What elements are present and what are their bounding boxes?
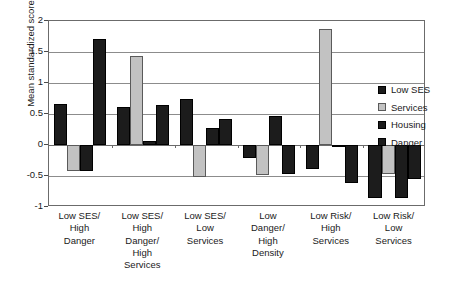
bar [117,107,130,145]
x-category-label-line: High [111,222,174,234]
legend-item: Housing [378,116,458,134]
legend-item: Low SES [378,81,458,99]
bar [206,128,219,145]
x-category-label-line: Low SES/ [174,210,237,222]
legend-swatch-icon [378,86,386,94]
x-category-label-line: Low Risk/ [299,210,362,222]
x-category-label-line: Low [362,222,425,234]
y-tick-label: 2 [3,15,43,25]
legend-label: Services [391,102,427,113]
legend-label: Danger [391,137,422,148]
y-tick-label: 0 [3,139,43,149]
bar-group [238,21,301,205]
bar [256,145,269,175]
legend-swatch-icon [378,103,386,111]
x-tick-mark [363,145,364,148]
x-tick-mark [300,145,301,148]
x-category-label-line: Low [237,210,300,222]
y-tick-label: 0.5 [3,108,43,118]
x-category-label: Low SES/HighDanger/HighServices [111,210,174,271]
x-category-label-line: Low SES/ [48,210,111,222]
y-tick-mark [44,206,48,207]
x-category-label-line: Low SES/ [111,210,174,222]
bar [156,105,169,145]
bar-group [49,21,112,205]
x-category-label-line: Low [174,222,237,234]
bar-chart-figure: Mean standardized score -1-0.500.511.52 … [0,0,458,294]
bar-group [300,21,363,205]
x-category-label-line: Danger/ [237,222,300,234]
y-tick-label: -1 [3,201,43,211]
x-category-label-line: High [299,222,362,234]
y-tick-label: 1 [3,77,43,87]
bar [93,39,106,145]
x-category-label-line: Danger [48,235,111,247]
x-category-label-line: High [48,222,111,234]
bar-group [112,21,175,205]
x-category-label: Low Risk/LowServices [362,210,425,247]
x-category-label: Low SES/LowServices [174,210,237,247]
x-category-label: Low Risk/HighServices [299,210,362,247]
bar [80,145,93,171]
legend-swatch-icon [378,138,386,146]
bar [243,145,256,158]
x-category-label-line: Danger/ [111,235,174,247]
bar [143,141,156,145]
x-tick-mark [238,145,239,148]
bar [54,104,67,145]
y-tick-label: 1.5 [3,46,43,56]
legend-item: Services [378,99,458,117]
plot-area [48,20,425,206]
chart-legend: Low SESServicesHousingDanger [378,81,458,151]
bar [319,29,332,145]
x-category-label-line: Services [174,235,237,247]
x-category-label-line: Services [111,259,174,271]
x-category-label-line: Low Risk/ [362,210,425,222]
bar [193,145,206,177]
bar [282,145,295,174]
bar [67,145,80,171]
bar [130,56,143,145]
bar [368,145,381,198]
x-axis-category-labels: Low SES/HighDangerLow SES/HighDanger/Hig… [48,210,425,294]
bar-group [175,21,238,205]
x-tick-mark [112,145,113,148]
x-category-label-line: High [111,247,174,259]
x-category-label-line: High [237,235,300,247]
legend-swatch-icon [378,121,386,129]
bar [269,116,282,145]
bar [219,119,232,145]
legend-item: Danger [378,134,458,152]
x-tick-mark [175,145,176,148]
bar [395,145,408,198]
bar [180,99,193,145]
legend-label: Housing [391,119,426,130]
x-category-label-line: Services [299,235,362,247]
y-tick-label: -0.5 [3,170,43,180]
x-category-label: LowDanger/HighDensity [237,210,300,259]
bar [345,145,358,183]
legend-label: Low SES [391,84,430,95]
x-category-label: Low SES/HighDanger [48,210,111,247]
x-category-label-line: Services [362,235,425,247]
bar [306,145,319,169]
bar [332,145,345,147]
x-category-label-line: Density [237,247,300,259]
